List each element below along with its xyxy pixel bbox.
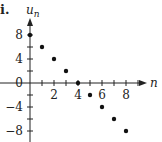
- y-tick-label: 4: [15, 52, 23, 66]
- data-point: [52, 57, 56, 61]
- panel-label: i.: [0, 2, 9, 17]
- y-tick-label: −8: [5, 124, 23, 138]
- data-point: [40, 45, 44, 49]
- y-tick-label: 8: [15, 28, 23, 42]
- y-axis-arrow-icon: [27, 18, 33, 26]
- x-axis-arrow-icon: [139, 80, 147, 86]
- data-point: [88, 93, 92, 97]
- y-axis-label-subscript: n: [34, 9, 40, 19]
- x-tick-label: 2: [50, 88, 58, 102]
- data-point: [112, 117, 116, 121]
- x-axis-label: n: [150, 76, 158, 90]
- y-tick-label: 0: [15, 76, 23, 90]
- x-tick-label: 4: [74, 88, 82, 102]
- data-point: [28, 33, 32, 37]
- x-tick-label: 6: [98, 88, 106, 102]
- x-tick-label: 8: [122, 88, 130, 102]
- y-axis-label-main: u: [26, 3, 34, 17]
- data-point: [76, 81, 80, 85]
- sequence-scatter-plot: i. un n 2 4 6 8 8: [0, 0, 162, 142]
- y-axis-label: un: [26, 3, 40, 19]
- y-tick-label: −4: [5, 100, 23, 114]
- data-point: [64, 69, 68, 73]
- data-point: [124, 129, 128, 133]
- data-point: [100, 105, 104, 109]
